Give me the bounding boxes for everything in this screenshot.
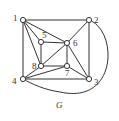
node-label-5: 5 <box>42 30 47 40</box>
edge-3-7 <box>67 66 89 79</box>
node-label-8: 8 <box>32 61 37 71</box>
node-label-4: 4 <box>12 76 17 86</box>
node-1 <box>20 17 25 22</box>
node-8 <box>38 63 43 68</box>
node-label-3: 3 <box>94 77 99 87</box>
graph-caption: G <box>56 100 63 110</box>
node-label-1: 1 <box>13 13 18 23</box>
edge-5-6 <box>41 42 67 43</box>
node-3 <box>86 76 91 81</box>
edge-4-7 <box>23 66 67 79</box>
node-label-2: 2 <box>94 15 99 25</box>
node-label-7: 7 <box>65 68 70 78</box>
node-5 <box>38 39 43 44</box>
node-label-6: 6 <box>73 38 78 48</box>
graph-diagram: 12345678 G <box>0 0 119 121</box>
node-2 <box>86 17 91 22</box>
edge-3-6 <box>67 43 89 79</box>
edge-1-5 <box>23 20 41 42</box>
edge-2-6 <box>67 20 89 43</box>
node-4 <box>20 76 25 81</box>
edge-6-8 <box>41 43 67 66</box>
node-6 <box>64 40 69 45</box>
